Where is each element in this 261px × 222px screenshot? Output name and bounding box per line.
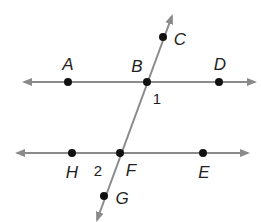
point-h [68, 149, 76, 157]
point-label-b: B [131, 57, 142, 76]
geometry-diagram: ABDCHFEG12 [0, 0, 261, 222]
point-label-f: F [126, 161, 138, 180]
point-label-c: C [174, 30, 187, 49]
point-c [159, 33, 167, 41]
angle-label-2: 2 [94, 162, 102, 179]
point-label-e: E [198, 163, 210, 182]
point-d [215, 78, 223, 86]
point-label-d: D [214, 55, 226, 74]
point-label-a: A [61, 55, 73, 74]
point-f [116, 149, 124, 157]
lines-layer [17, 16, 255, 220]
line-cg [97, 16, 172, 220]
point-g [100, 192, 108, 200]
point-b [143, 78, 151, 86]
point-label-g: G [115, 189, 128, 208]
labels-layer: ABDCHFEG12 [61, 30, 226, 208]
point-a [64, 78, 72, 86]
point-e [199, 149, 207, 157]
angle-label-1: 1 [153, 90, 161, 107]
point-label-h: H [66, 163, 79, 182]
